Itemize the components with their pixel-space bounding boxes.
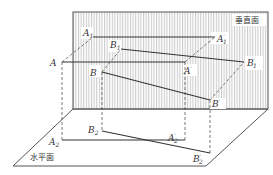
diagram-canvas: 垂直面 水平面 A B A1 B1 A′ B′ A′1 B′1 A2 <box>0 0 273 175</box>
label-a: A <box>49 58 57 68</box>
projection-diagram: 垂直面 水平面 A B A1 B1 A′ B′ A′1 B′1 A2 <box>0 0 273 175</box>
vertical-plane-label: 垂直面 <box>235 15 259 25</box>
label-b: B <box>89 68 97 78</box>
horizontal-plane-label: 水平面 <box>30 152 54 162</box>
